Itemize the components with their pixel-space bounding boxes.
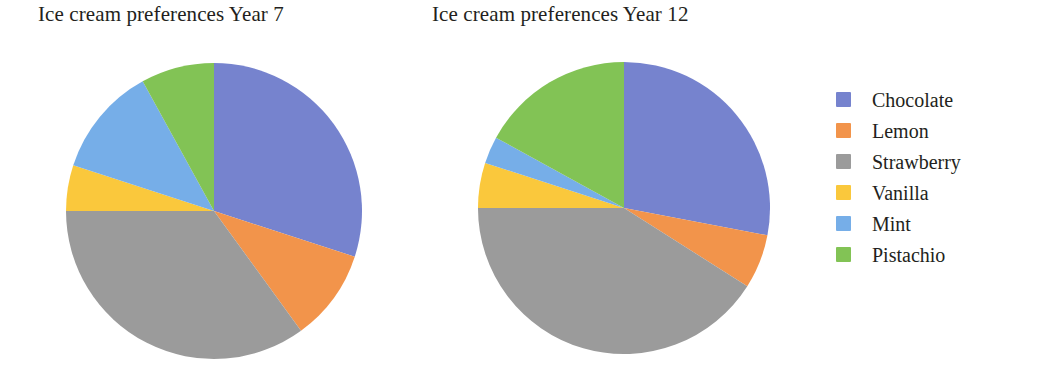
legend-label-lemon: Lemon [872, 121, 929, 141]
legend-label-chocolate: Chocolate [872, 90, 953, 110]
pie-svg-year7 [64, 61, 364, 361]
chart-title-year12: Ice cream preferences Year 12 [432, 2, 689, 26]
legend-swatch-chocolate [836, 92, 851, 107]
pie-slice-chocolate [624, 62, 770, 235]
legend-swatch-pistachio [836, 247, 851, 262]
pie-chart-year12 [476, 60, 772, 356]
legend-item-pistachio: Pistachio [836, 239, 1036, 270]
pie-svg-year12 [476, 60, 772, 356]
legend-item-chocolate: Chocolate [836, 84, 1036, 115]
pie-chart-year7 [64, 61, 364, 361]
legend-swatch-mint [836, 216, 851, 231]
legend-label-strawberry: Strawberry [872, 152, 961, 172]
legend-swatch-lemon [836, 123, 851, 138]
legend-swatch-vanilla [836, 185, 851, 200]
legend-swatch-strawberry [836, 154, 851, 169]
legend-label-mint: Mint [872, 214, 911, 234]
chart-legend: Chocolate Lemon Strawberry Vanilla Mint … [836, 84, 1036, 270]
pie-chart-figure: Ice cream preferences Year 7 Ice cream p… [0, 0, 1041, 388]
legend-item-vanilla: Vanilla [836, 177, 1036, 208]
legend-item-strawberry: Strawberry [836, 146, 1036, 177]
chart-title-year7: Ice cream preferences Year 7 [38, 2, 284, 26]
legend-label-vanilla: Vanilla [872, 183, 929, 203]
legend-item-mint: Mint [836, 208, 1036, 239]
legend-label-pistachio: Pistachio [872, 245, 945, 265]
legend-item-lemon: Lemon [836, 115, 1036, 146]
